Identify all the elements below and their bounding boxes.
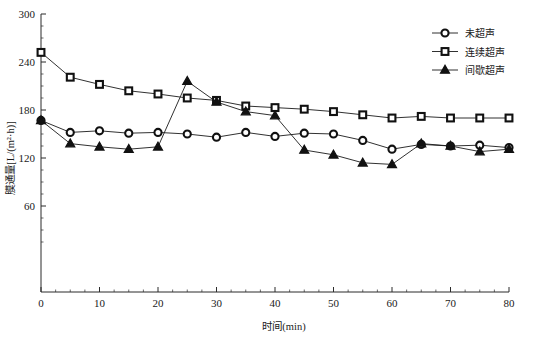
y-tick-label: 300: [19, 8, 36, 20]
x-tick-label: 20: [153, 297, 165, 309]
x-axis-title: 时间(min): [262, 320, 306, 333]
legend-label: 连续超声: [465, 46, 505, 58]
legend-item[interactable]: 连续超声: [432, 46, 505, 58]
square-marker: [442, 48, 449, 55]
x-tick-label: 40: [270, 297, 282, 309]
circle-marker: [330, 130, 337, 137]
chart-legend[interactable]: 未超声连续超声间歇超声: [432, 27, 505, 76]
y-tick-label: 240: [19, 56, 36, 68]
square-marker: [389, 115, 396, 122]
circle-marker: [96, 127, 103, 134]
circle-marker: [388, 146, 395, 153]
square-marker: [96, 81, 103, 88]
x-tick-label: 50: [328, 297, 340, 309]
square-marker: [301, 106, 308, 113]
legend-label: 间歇超声: [465, 64, 505, 76]
square-marker: [67, 74, 74, 81]
square-marker: [506, 115, 513, 122]
circle-marker: [184, 130, 191, 137]
square-marker: [155, 91, 162, 98]
square-marker: [184, 95, 191, 102]
x-tick-label: 70: [445, 297, 457, 309]
y-tick-label: 60: [24, 200, 36, 212]
legend-label: 未超声: [465, 27, 495, 39]
x-tick-label: 30: [211, 297, 223, 309]
line-chart-canvas: 0102030405060708060120180240300 未超声连续超声间…: [0, 0, 537, 346]
square-marker: [330, 108, 337, 115]
circle-marker: [67, 129, 74, 136]
square-marker: [418, 113, 425, 120]
x-tick-label: 0: [38, 297, 44, 309]
x-tick-label: 80: [504, 297, 516, 309]
square-marker: [125, 87, 132, 94]
circle-marker: [271, 133, 278, 140]
circle-marker: [125, 130, 132, 137]
circle-marker: [359, 137, 366, 144]
y-axis-title: 膜通量[L/(m²·h)]: [5, 121, 17, 194]
circle-marker: [242, 129, 249, 136]
circle-marker: [154, 129, 161, 136]
square-marker: [447, 115, 454, 122]
x-tick-label: 60: [387, 297, 399, 309]
square-marker: [359, 111, 366, 118]
square-marker: [38, 49, 45, 56]
circle-marker: [441, 29, 448, 36]
x-tick-label: 10: [94, 297, 106, 309]
y-tick-label: 180: [19, 104, 36, 116]
chart-figure: 0102030405060708060120180240300 未超声连续超声间…: [0, 0, 537, 346]
y-tick-label: 120: [19, 152, 36, 164]
circle-marker: [301, 130, 308, 137]
circle-marker: [213, 134, 220, 141]
square-marker: [476, 115, 483, 122]
